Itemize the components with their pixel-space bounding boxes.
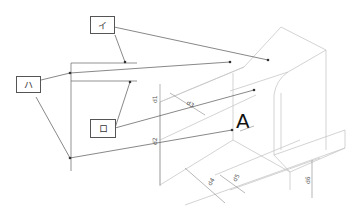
callout-ha-text: ハ xyxy=(24,78,33,91)
dim-d5: d5 xyxy=(231,172,241,182)
callout-i: イ xyxy=(90,16,115,34)
callout-i-text: イ xyxy=(98,19,107,32)
reference-lines xyxy=(71,63,137,171)
dim-d6: d6 xyxy=(304,176,311,184)
part-outline xyxy=(160,27,345,205)
dim-d4: d4 xyxy=(206,176,216,186)
callout-ro-text: ロ xyxy=(99,122,108,135)
callout-ha: ハ xyxy=(16,76,41,93)
callout-ro: ロ xyxy=(90,119,116,138)
dimension-lines xyxy=(160,84,312,203)
view-marker-a: A xyxy=(236,109,250,133)
dim-d1: d1 xyxy=(151,95,158,103)
isometric-drawing: d1 d2 d3 d4 d5 d6 A xyxy=(0,0,352,216)
